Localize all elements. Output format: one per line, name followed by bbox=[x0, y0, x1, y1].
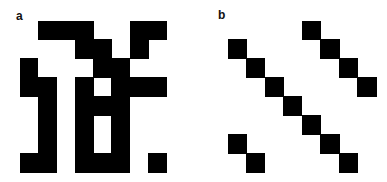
filled-cell bbox=[75, 21, 94, 41]
filled-cell bbox=[130, 77, 149, 97]
filled-cell bbox=[228, 39, 247, 59]
filled-cell bbox=[111, 96, 130, 116]
filled-cell bbox=[148, 21, 167, 41]
filled-cell bbox=[56, 21, 75, 41]
filled-cell bbox=[20, 58, 39, 78]
filled-cell bbox=[75, 134, 94, 154]
panel-b-label: b bbox=[218, 9, 225, 21]
filled-cell bbox=[111, 153, 130, 173]
filled-cell bbox=[339, 153, 358, 173]
filled-cell bbox=[20, 153, 39, 173]
filled-cell bbox=[130, 21, 149, 41]
filled-cell bbox=[320, 134, 339, 154]
filled-cell bbox=[93, 96, 112, 116]
filled-cell bbox=[148, 77, 167, 97]
panel-a: a bbox=[0, 0, 193, 182]
filled-cell bbox=[93, 58, 112, 78]
filled-cell bbox=[38, 115, 57, 135]
filled-cell bbox=[93, 39, 112, 59]
filled-cell bbox=[75, 39, 94, 59]
filled-cell bbox=[75, 115, 94, 135]
filled-cell bbox=[20, 77, 39, 97]
filled-cell bbox=[283, 96, 302, 116]
panel-a-pixel-grid bbox=[20, 21, 167, 173]
filled-cell bbox=[75, 96, 94, 116]
filled-cell bbox=[246, 153, 265, 173]
filled-cell bbox=[148, 153, 167, 173]
panel-b: b bbox=[193, 0, 387, 182]
filled-cell bbox=[228, 134, 247, 154]
filled-cell bbox=[111, 77, 130, 97]
filled-cell bbox=[111, 115, 130, 135]
filled-cell bbox=[302, 21, 321, 41]
filled-cell bbox=[75, 77, 94, 97]
filled-cell bbox=[38, 21, 57, 41]
filled-cell bbox=[339, 58, 358, 78]
filled-cell bbox=[111, 58, 130, 78]
panel-b-pixel-grid bbox=[228, 21, 376, 173]
filled-cell bbox=[302, 115, 321, 135]
filled-cell bbox=[75, 153, 94, 173]
filled-cell bbox=[320, 39, 339, 59]
filled-cell bbox=[130, 39, 149, 59]
filled-cell bbox=[111, 134, 130, 154]
filled-cell bbox=[38, 134, 57, 154]
filled-cell bbox=[38, 153, 57, 173]
filled-cell bbox=[38, 77, 57, 97]
filled-cell bbox=[357, 77, 376, 97]
filled-cell bbox=[246, 58, 265, 78]
filled-cell bbox=[38, 96, 57, 116]
filled-cell bbox=[265, 77, 284, 97]
filled-cell bbox=[93, 153, 112, 173]
